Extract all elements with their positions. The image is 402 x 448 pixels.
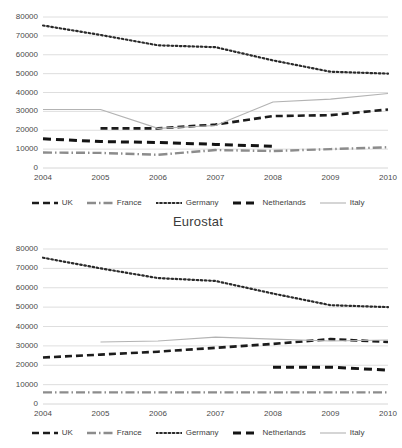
legend-label: France: [117, 429, 142, 437]
chart-top-plot-area: [0, 0, 396, 180]
chart-bottom-legend: UKFranceGermanyNetherlandsItaly: [0, 426, 396, 440]
legend-label: UK: [62, 199, 73, 207]
series-line-uk: [43, 339, 388, 357]
y-axis-tick-label: 30000: [0, 342, 38, 350]
legend-label: Germany: [186, 199, 219, 207]
y-axis-tick-label: 40000: [0, 89, 38, 97]
chart-bottom-title: Eurostat: [0, 214, 396, 229]
y-axis-tick-label: 0: [0, 400, 38, 408]
legend-item-france[interactable]: France: [87, 429, 142, 437]
legend-swatch-netherlands-icon: [233, 199, 259, 207]
series-line-uk: [101, 109, 389, 128]
x-axis-tick-label: 2010: [368, 410, 402, 418]
x-axis-tick-label: 2010: [368, 174, 402, 182]
y-axis-tick-label: 80000: [0, 245, 38, 253]
legend-swatch-italy-icon: [320, 199, 346, 207]
y-axis-tick-label: 60000: [0, 51, 38, 59]
legend-swatch-germany-icon: [156, 429, 182, 437]
legend-item-germany[interactable]: Germany: [156, 429, 219, 437]
legend-item-uk[interactable]: UK: [32, 429, 73, 437]
legend-item-netherlands[interactable]: Netherlands: [233, 199, 306, 207]
y-axis-tick-label: 10000: [0, 145, 38, 153]
y-axis-tick-label: 50000: [0, 70, 38, 78]
series-line-germany: [43, 25, 388, 73]
legend-label: Italy: [350, 429, 365, 437]
legend-label: Netherlands: [263, 199, 306, 207]
legend-swatch-uk-icon: [32, 429, 58, 437]
y-axis-tick-label: 20000: [0, 126, 38, 134]
legend-item-italy[interactable]: Italy: [320, 429, 365, 437]
legend-swatch-italy-icon: [320, 429, 346, 437]
chart-bottom-plot-area: [0, 234, 396, 418]
legend-swatch-france-icon: [87, 199, 113, 207]
series-line-italy: [43, 93, 388, 128]
y-axis-tick-label: 10000: [0, 381, 38, 389]
y-axis-tick-label: 0: [0, 164, 38, 172]
x-axis-tick-label: 2004: [23, 174, 63, 182]
y-axis-tick-label: 30000: [0, 107, 38, 115]
y-axis-tick-label: 50000: [0, 303, 38, 311]
legend-swatch-france-icon: [87, 429, 113, 437]
x-axis-tick-label: 2005: [81, 410, 121, 418]
legend-label: Germany: [186, 429, 219, 437]
legend-label: Italy: [350, 199, 365, 207]
legend-swatch-germany-icon: [156, 199, 182, 207]
x-axis-tick-label: 2008: [253, 410, 293, 418]
legend-label: France: [117, 199, 142, 207]
chart-bottom: Eurostat UKFranceGermanyNetherlandsItaly…: [0, 210, 396, 448]
series-line-france: [43, 147, 388, 155]
chart-top-canvas: [0, 0, 396, 180]
legend-swatch-uk-icon: [32, 199, 58, 207]
legend-item-germany[interactable]: Germany: [156, 199, 219, 207]
x-axis-tick-label: 2008: [253, 174, 293, 182]
x-axis-tick-label: 2009: [311, 410, 351, 418]
y-axis-tick-label: 60000: [0, 284, 38, 292]
x-axis-tick-label: 2006: [138, 174, 178, 182]
series-line-netherlands: [43, 139, 273, 147]
x-axis-tick-label: 2004: [23, 410, 63, 418]
x-axis-tick-label: 2006: [138, 410, 178, 418]
y-axis-tick-label: 70000: [0, 32, 38, 40]
y-axis-tick-label: 40000: [0, 323, 38, 331]
chart-top-legend: UKFranceGermanyNetherlandsItaly: [0, 196, 396, 210]
legend-item-france[interactable]: France: [87, 199, 142, 207]
x-axis-tick-label: 2005: [81, 174, 121, 182]
x-axis-tick-label: 2009: [311, 174, 351, 182]
chart-top: UKFranceGermanyNetherlandsItaly 01000020…: [0, 0, 396, 210]
y-axis-tick-label: 20000: [0, 361, 38, 369]
y-axis-tick-label: 70000: [0, 264, 38, 272]
series-line-netherlands: [273, 367, 388, 370]
x-axis-tick-label: 2007: [196, 174, 236, 182]
legend-item-uk[interactable]: UK: [32, 199, 73, 207]
series-line-germany: [43, 258, 388, 307]
legend-swatch-netherlands-icon: [233, 429, 259, 437]
legend-item-italy[interactable]: Italy: [320, 199, 365, 207]
legend-item-netherlands[interactable]: Netherlands: [233, 429, 306, 437]
legend-label: UK: [62, 429, 73, 437]
legend-label: Netherlands: [263, 429, 306, 437]
x-axis-tick-label: 2007: [196, 410, 236, 418]
y-axis-tick-label: 80000: [0, 13, 38, 21]
chart-bottom-canvas: [0, 234, 396, 418]
